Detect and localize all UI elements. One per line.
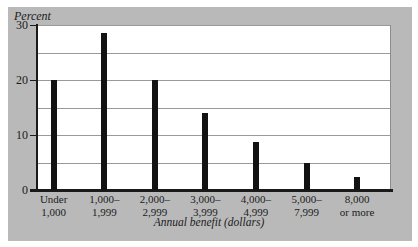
y-tick-label: 20	[16, 74, 28, 86]
x-tick-label: 5,000– 7,999	[281, 193, 332, 218]
gridline	[37, 135, 390, 136]
gridline	[37, 25, 390, 26]
y-axis-line	[36, 24, 38, 191]
x-tick-label: 4,000– 4,999	[231, 193, 282, 218]
y-tick-mark	[30, 25, 37, 26]
bar	[51, 80, 57, 190]
bar	[202, 113, 208, 190]
x-tick-label: 1,000– 1,999	[79, 193, 130, 218]
gridline	[37, 53, 390, 54]
bar	[152, 80, 158, 190]
bar	[354, 177, 360, 190]
y-tick-mark	[30, 80, 37, 81]
bar	[253, 142, 259, 190]
chart-figure: Percent 3020100 Under 1,0001,000– 1,9992…	[0, 0, 418, 247]
y-tick-label: 10	[16, 129, 28, 141]
y-tick-label: 30	[16, 19, 28, 31]
gridline	[37, 80, 390, 81]
bar	[304, 163, 310, 191]
x-tick-label: Under 1,000	[28, 193, 79, 218]
x-tick-label: 3,000– 3,999	[180, 193, 231, 218]
plot-area	[37, 25, 391, 190]
x-tick-label: 2,000– 2,999	[130, 193, 181, 218]
x-axis-title: Annual benefit (dollars)	[0, 216, 418, 228]
x-tick-label: 8,000 or more	[332, 193, 383, 218]
x-axis-line	[30, 189, 393, 192]
bar	[101, 33, 107, 190]
y-tick-mark	[30, 190, 37, 191]
y-tick-mark	[30, 135, 37, 136]
gridline	[37, 108, 390, 109]
y-tick-label: 0	[22, 184, 28, 196]
gridline	[37, 163, 390, 164]
